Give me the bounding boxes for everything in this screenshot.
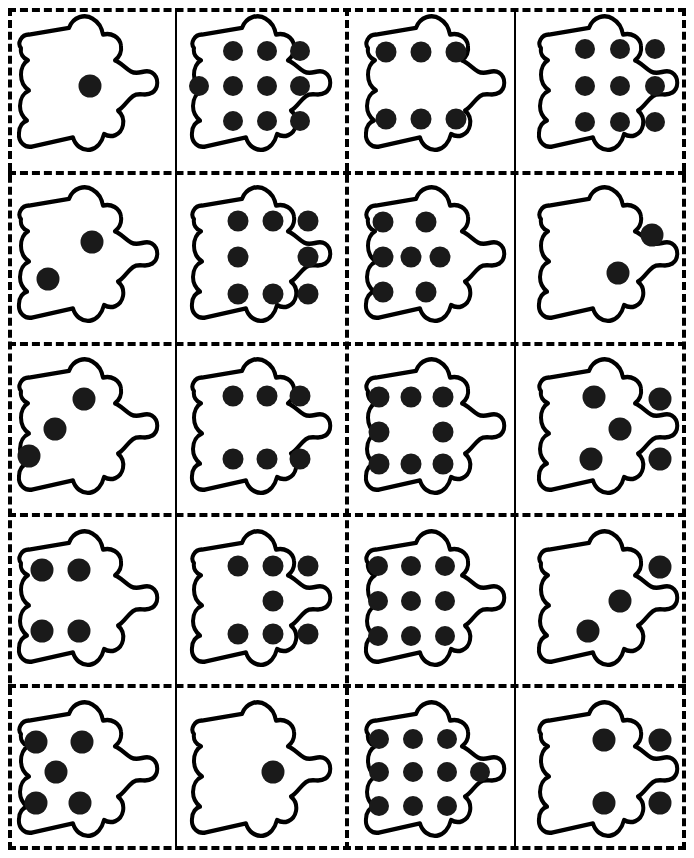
card-r3c1[interactable] bbox=[7, 353, 167, 505]
dot bbox=[593, 791, 616, 814]
dot bbox=[72, 387, 95, 410]
card-cell[interactable] bbox=[347, 0, 521, 172]
dot bbox=[610, 112, 630, 132]
card-r4c2[interactable] bbox=[180, 525, 340, 677]
card-cell[interactable] bbox=[347, 515, 521, 687]
dot bbox=[30, 619, 53, 642]
dot-layer bbox=[354, 353, 514, 505]
card-cell[interactable] bbox=[174, 0, 348, 172]
dot bbox=[437, 796, 457, 816]
card-r5c3[interactable] bbox=[354, 696, 514, 848]
card-r2c4[interactable] bbox=[527, 181, 687, 333]
dot bbox=[290, 41, 310, 61]
card-r4c1[interactable] bbox=[7, 525, 167, 677]
dot bbox=[37, 267, 60, 290]
dot bbox=[649, 729, 672, 752]
dot bbox=[401, 247, 422, 268]
card-r5c2[interactable] bbox=[180, 696, 340, 848]
dot bbox=[45, 761, 68, 784]
dot bbox=[372, 247, 393, 268]
dot bbox=[375, 109, 396, 130]
worksheet-page bbox=[0, 0, 694, 858]
dot-layer bbox=[180, 181, 340, 333]
card-r5c4[interactable] bbox=[527, 696, 687, 848]
card-cell[interactable] bbox=[0, 0, 174, 172]
dot bbox=[290, 111, 310, 131]
card-cell[interactable] bbox=[0, 686, 174, 858]
card-r1c3[interactable] bbox=[354, 10, 514, 162]
card-cell[interactable] bbox=[521, 343, 694, 515]
card-r4c3[interactable] bbox=[354, 525, 514, 677]
card-r2c2[interactable] bbox=[180, 181, 340, 333]
dot bbox=[223, 76, 243, 96]
card-r2c3[interactable] bbox=[354, 181, 514, 333]
dot bbox=[67, 619, 90, 642]
card-r2c1[interactable] bbox=[7, 181, 167, 333]
dot bbox=[227, 247, 248, 268]
dot bbox=[575, 112, 595, 132]
card-cell[interactable] bbox=[521, 515, 694, 687]
dot bbox=[410, 109, 431, 130]
dot bbox=[575, 76, 595, 96]
card-r4c4[interactable] bbox=[527, 525, 687, 677]
dot bbox=[298, 624, 319, 645]
dot bbox=[435, 626, 455, 646]
card-cell[interactable] bbox=[521, 172, 694, 344]
card-cell[interactable] bbox=[0, 343, 174, 515]
card-r1c1[interactable] bbox=[7, 10, 167, 162]
dot bbox=[649, 791, 672, 814]
dot bbox=[189, 76, 209, 96]
dot bbox=[30, 559, 53, 582]
dot bbox=[227, 555, 248, 576]
card-r1c2[interactable] bbox=[180, 10, 340, 162]
dot bbox=[403, 796, 423, 816]
dot bbox=[410, 42, 431, 63]
card-r5c1[interactable] bbox=[7, 696, 167, 848]
card-cell[interactable] bbox=[174, 172, 348, 344]
dot-layer bbox=[527, 696, 687, 848]
card-cell[interactable] bbox=[174, 686, 348, 858]
card-cell[interactable] bbox=[521, 0, 694, 172]
card-cell[interactable] bbox=[174, 343, 348, 515]
card-r3c2[interactable] bbox=[180, 353, 340, 505]
card-r3c3[interactable] bbox=[354, 353, 514, 505]
dot bbox=[263, 555, 284, 576]
dot bbox=[67, 559, 90, 582]
card-cell[interactable] bbox=[174, 515, 348, 687]
dot-layer bbox=[180, 10, 340, 162]
card-cell[interactable] bbox=[521, 686, 694, 858]
dot bbox=[263, 590, 284, 611]
dot-layer bbox=[354, 696, 514, 848]
dot bbox=[645, 76, 665, 96]
dot bbox=[24, 791, 47, 814]
card-r1c4[interactable] bbox=[527, 10, 687, 162]
dot bbox=[262, 761, 285, 784]
dot bbox=[372, 212, 393, 233]
card-r3c4[interactable] bbox=[527, 353, 687, 505]
dot bbox=[649, 448, 672, 471]
dot bbox=[263, 283, 284, 304]
dot bbox=[433, 453, 454, 474]
dot bbox=[223, 41, 243, 61]
dot-layer bbox=[7, 181, 167, 333]
dot bbox=[369, 422, 390, 443]
dot bbox=[433, 387, 454, 408]
dot bbox=[369, 729, 389, 749]
dot bbox=[610, 76, 630, 96]
dot bbox=[446, 109, 467, 130]
card-cell[interactable] bbox=[347, 172, 521, 344]
card-cell[interactable] bbox=[347, 343, 521, 515]
dot-layer bbox=[7, 696, 167, 848]
dot bbox=[43, 417, 66, 440]
dot bbox=[223, 449, 244, 470]
card-cell[interactable] bbox=[0, 515, 174, 687]
dot bbox=[609, 589, 632, 612]
dot bbox=[415, 212, 436, 233]
dot bbox=[375, 42, 396, 63]
dot bbox=[223, 111, 243, 131]
card-cell[interactable] bbox=[347, 686, 521, 858]
dot bbox=[401, 453, 422, 474]
dot bbox=[290, 385, 311, 406]
card-cell[interactable] bbox=[0, 172, 174, 344]
dot bbox=[593, 729, 616, 752]
